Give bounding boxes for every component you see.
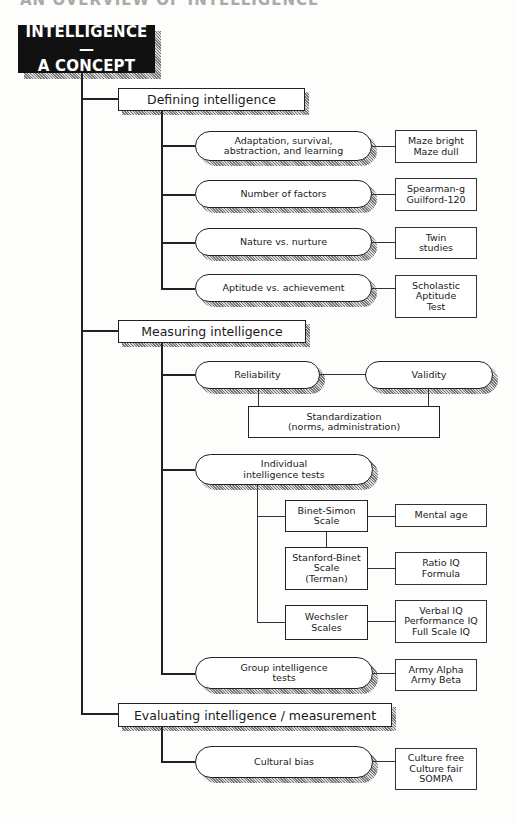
text-line: Individual bbox=[243, 459, 324, 470]
detail-culture-fair: Culture freeCulture fairSOMPA bbox=[395, 748, 477, 790]
topic-nature-vs-nurture: Nature vs. nurture bbox=[195, 228, 372, 256]
connector bbox=[372, 288, 395, 289]
topic-cultural-bias: Cultural bias bbox=[195, 746, 373, 778]
text-line: Maze dull bbox=[408, 147, 464, 158]
section-measuring-intelligence: Measuring intelligence bbox=[118, 320, 306, 343]
text-line: Wechsler bbox=[305, 612, 348, 623]
topic-individual-tests: Individualintelligence tests bbox=[195, 454, 373, 485]
text-line: Scales bbox=[305, 623, 348, 634]
connector bbox=[161, 469, 195, 471]
page-title: AN OVERVIEW OF INTELLIGENCE bbox=[20, 0, 319, 9]
text-line: (Terman) bbox=[292, 574, 360, 585]
text-line: Aptitude vs. achievement bbox=[222, 283, 344, 294]
connector bbox=[161, 145, 195, 147]
topic-adaptation: Adaptation, survival,abstraction, and le… bbox=[195, 131, 372, 161]
detail-mental-age: Mental age bbox=[395, 504, 487, 527]
connector bbox=[257, 516, 285, 517]
connector bbox=[428, 389, 429, 406]
measuring-branch-line bbox=[161, 343, 163, 675]
text-line: studies bbox=[419, 243, 453, 254]
section-defining-intelligence: Defining intelligence bbox=[118, 88, 305, 111]
text-line: Nature vs. nurture bbox=[240, 237, 327, 248]
detail-sat: ScholasticAptitudeTest bbox=[395, 275, 477, 318]
detail-wechsler-iq: Verbal IQPerformance IQFull Scale IQ bbox=[395, 600, 487, 643]
root-line-1: INTELLIGENCE— bbox=[18, 24, 155, 58]
individual-branch-line bbox=[257, 485, 258, 623]
text-line: Reliability bbox=[234, 370, 280, 381]
connector-binet-stanford bbox=[326, 532, 327, 547]
connector bbox=[161, 761, 195, 763]
connector bbox=[372, 242, 395, 243]
connector bbox=[161, 374, 195, 376]
text-line: Formula bbox=[422, 569, 460, 580]
connector bbox=[161, 242, 195, 244]
text-line: Army Beta bbox=[408, 675, 463, 686]
test-binet-simon: Binet-SimonScale bbox=[285, 500, 368, 532]
connector-defining bbox=[81, 98, 118, 100]
text-line: Full Scale IQ bbox=[404, 627, 478, 638]
connector bbox=[373, 673, 395, 674]
section-evaluating: Evaluating intelligence / measurement bbox=[118, 703, 392, 727]
connector bbox=[372, 146, 395, 147]
defining-branch-line bbox=[161, 111, 163, 289]
section-label: Evaluating intelligence / measurement bbox=[134, 708, 376, 723]
text-line: Guilford-120 bbox=[406, 195, 465, 206]
topic-group-tests: Group intelligencetests bbox=[195, 657, 373, 689]
text-line: abstraction, and learning bbox=[224, 146, 343, 157]
topic-number-of-factors: Number of factors bbox=[195, 180, 372, 208]
topic-validity: Validity bbox=[365, 361, 493, 389]
text-line: Validity bbox=[412, 370, 447, 381]
text-line: Maze bright bbox=[408, 136, 464, 147]
connector bbox=[258, 389, 259, 406]
section-label: Measuring intelligence bbox=[141, 324, 283, 339]
connector bbox=[368, 621, 395, 622]
test-wechsler: WechslerScales bbox=[285, 605, 368, 640]
topic-reliability: Reliability bbox=[195, 361, 320, 389]
text-line: Ratio IQ bbox=[422, 558, 460, 569]
text-line: Cultural bias bbox=[254, 757, 314, 768]
text-line: Number of factors bbox=[240, 189, 326, 200]
main-trunk-line bbox=[81, 73, 83, 715]
connector-measuring bbox=[81, 330, 118, 332]
text-line: intelligence tests bbox=[243, 470, 324, 481]
text-line: (norms, administration) bbox=[288, 422, 400, 433]
topic-aptitude-vs-achievement: Aptitude vs. achievement bbox=[195, 274, 372, 302]
detail-army-tests: Army AlphaArmy Beta bbox=[395, 659, 477, 691]
test-stanford-binet: Stanford-BinetScale(Terman) bbox=[285, 547, 368, 590]
text-line: Mental age bbox=[415, 510, 468, 521]
connector bbox=[372, 194, 395, 195]
root-node: INTELLIGENCE— A CONCEPT bbox=[18, 25, 155, 73]
text-line: Test bbox=[412, 302, 460, 313]
text-line: tests bbox=[240, 673, 327, 684]
connector bbox=[368, 568, 395, 569]
connector bbox=[257, 622, 285, 623]
root-line-2: A CONCEPT bbox=[18, 58, 155, 75]
evaluating-branch-line bbox=[161, 727, 163, 763]
text-line: SOMPA bbox=[408, 774, 464, 785]
connector bbox=[368, 516, 395, 517]
section-label: Defining intelligence bbox=[147, 92, 276, 107]
text-line: Spearman-g bbox=[406, 184, 465, 195]
connector bbox=[161, 194, 195, 196]
connector bbox=[161, 673, 195, 675]
detail-twin-studies: Twinstudies bbox=[395, 227, 477, 259]
detail-maze: Maze brightMaze dull bbox=[395, 130, 477, 163]
text-line: Scale bbox=[298, 516, 356, 527]
connector bbox=[161, 288, 195, 290]
connector-evaluating bbox=[81, 713, 118, 715]
connector bbox=[373, 761, 395, 762]
connector-reliability-validity bbox=[320, 374, 365, 375]
topic-standardization: Standardization(norms, administration) bbox=[248, 406, 440, 438]
detail-ratio-iq: Ratio IQFormula bbox=[395, 552, 487, 585]
detail-factors: Spearman-gGuilford-120 bbox=[395, 178, 477, 211]
